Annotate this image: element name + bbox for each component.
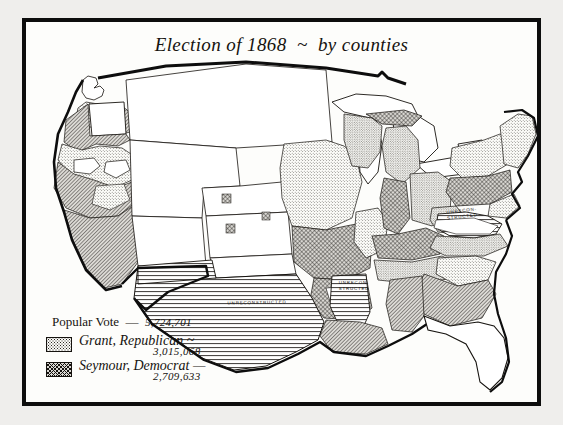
legend-seymour-votes: 2,709,633 — [153, 371, 205, 383]
map-page: Election of 1868 ~ by counties — [0, 0, 563, 425]
map-legend: Popular Vote — 5,724,701 Grant, Republic… — [46, 314, 281, 384]
legend-swatch-seymour — [46, 362, 72, 377]
region-florida — [424, 316, 508, 390]
county-territory-shaded-2 — [226, 224, 235, 233]
legend-swatch-grant — [46, 337, 72, 352]
region-kansas-territory — [206, 212, 292, 258]
legend-seymour-text: Seymour, Democrat —2,709,633 — [79, 359, 205, 383]
map-plate-inner: Election of 1868 ~ by counties — [26, 22, 537, 402]
legend-popular-vote-label: Popular Vote — — [52, 314, 145, 329]
county-territory-shaded-1 — [222, 194, 231, 203]
legend-row-grant: Grant, Republican ~3,015,068 — [46, 334, 281, 358]
map-plate-frame: Election of 1868 ~ by counties — [22, 18, 541, 406]
region-nebraska-territory — [202, 182, 288, 216]
region-indiana — [380, 178, 410, 234]
county-territory-shaded-3 — [262, 212, 270, 220]
legend-popular-vote-value: 5,724,701 — [145, 316, 192, 328]
region-montana-dakota-territory — [126, 64, 332, 148]
legend-grant-text: Grant, Republican ~3,015,068 — [79, 334, 201, 358]
legend-popular-vote: Popular Vote — 5,724,701 — [52, 314, 281, 330]
region-utah-territory — [89, 102, 126, 136]
region-washington-territory — [82, 76, 104, 100]
legend-grant-votes: 3,015,068 — [153, 346, 201, 358]
region-newmexico-arizona-territory — [132, 216, 206, 266]
region-new-england — [500, 114, 536, 168]
region-alabama — [386, 276, 424, 332]
legend-row-seymour: Seymour, Democrat —2,709,633 — [46, 359, 281, 383]
